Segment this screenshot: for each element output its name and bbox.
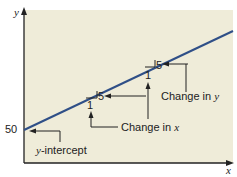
run-label-1: 1 [87, 99, 93, 111]
change-in-x-label: Change in x [121, 121, 179, 133]
plot-panel [24, 10, 233, 163]
change-in-y-label: Change in y [161, 90, 219, 102]
rise-label-1: 5 [98, 90, 104, 102]
x-axis-label: x [225, 164, 231, 176]
y-axis-label: y [13, 6, 19, 18]
linear-function-diagram: y x 50 y-intercept 5 1 5 1 Change in y C… [0, 0, 237, 177]
y-intercept-value: 50 [5, 123, 17, 135]
y-intercept-label: y-intercept [35, 144, 87, 156]
run-label-2: 1 [145, 69, 151, 81]
rise-label-2: 5 [156, 59, 162, 71]
